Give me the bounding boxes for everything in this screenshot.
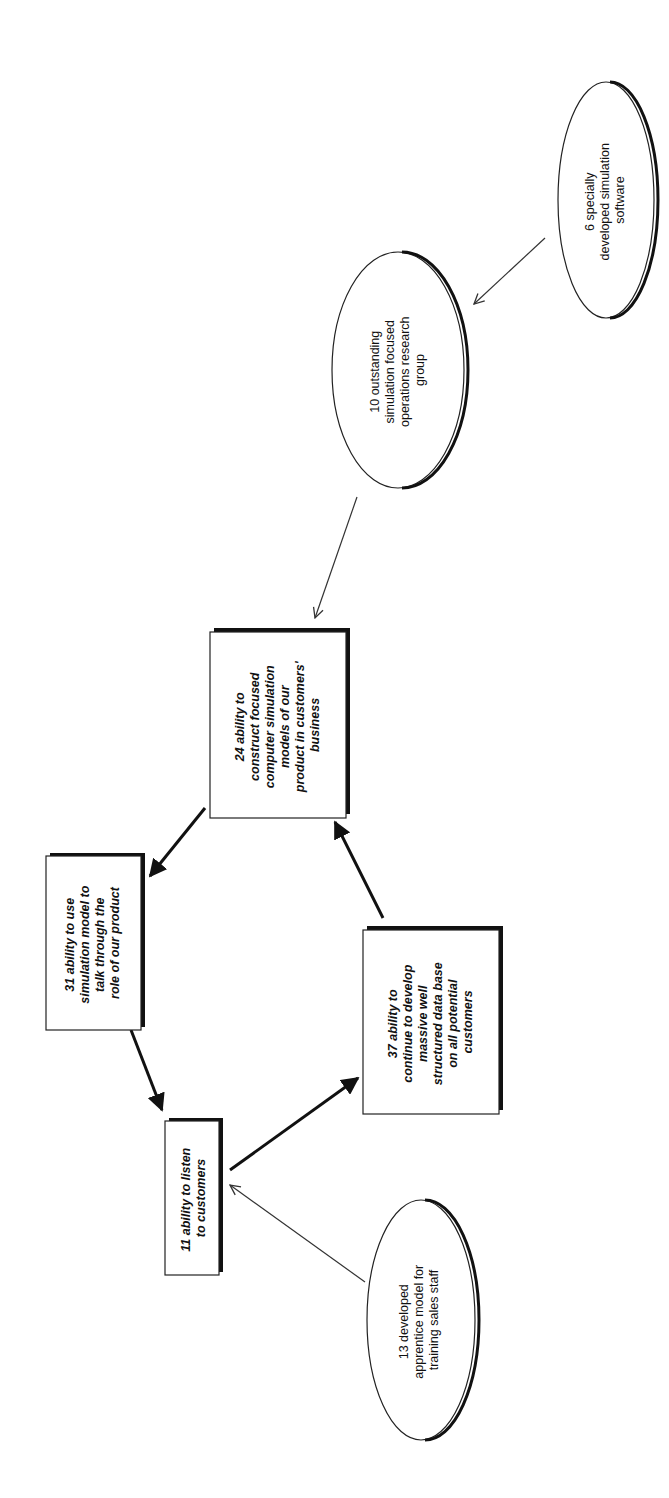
- node-37-line: continue to develop: [401, 964, 415, 1082]
- node-31-line: talk through the: [93, 897, 107, 991]
- node-10-line: group: [413, 354, 427, 386]
- node-37-line: on all potential: [446, 979, 460, 1068]
- edge-24-to-31: [150, 808, 205, 876]
- node-6-line: software: [613, 176, 627, 223]
- node-37: 37 ability to continue to develop massiv…: [363, 926, 503, 1114]
- node-6-line: developed simulation: [598, 143, 612, 260]
- edge-31-to-11: [131, 1030, 162, 1110]
- node-10: 10 outstanding simulation focused operat…: [332, 252, 468, 488]
- svg-text:11 ability to listen to: 11 ability to listen to customers: [179, 1144, 208, 1251]
- node-11-line: to customers: [194, 1159, 208, 1238]
- node-37-line: 37 ability to: [386, 989, 400, 1058]
- node-24-line: business: [308, 698, 322, 752]
- node-31-line: 31 ability to use: [63, 898, 77, 992]
- node-11-line: 11 ability to listen: [179, 1147, 193, 1251]
- node-37-line: customers: [461, 990, 475, 1053]
- edge-11-to-37: [230, 1078, 358, 1170]
- node-24-line: computer simulation: [263, 665, 277, 788]
- diagram-canvas: 6 specially developed simulation softwar…: [0, 0, 669, 1498]
- node-10-line: operations research: [398, 316, 412, 427]
- node-13: 13 developed apprentice model for traini…: [367, 1200, 479, 1440]
- node-13-line: training sales staff: [427, 1269, 441, 1370]
- node-11: 11 ability to listen to customers: [165, 1118, 223, 1275]
- node-6-line: 6 specially: [583, 172, 597, 231]
- svg-text:31 ability to use simula: 31 ability to use simulation model to ta…: [63, 882, 122, 1004]
- node-6: 6 specially developed simulation softwar…: [558, 82, 658, 318]
- node-31: 31 ability to use simulation model to ta…: [46, 853, 145, 1030]
- edge-13-to-11: [230, 1185, 365, 1282]
- edge-37-to-24: [335, 822, 383, 918]
- node-10-line: 10 outstanding: [368, 331, 382, 413]
- edge-6-to-10: [474, 238, 545, 304]
- node-13-line: apprentice model for: [412, 1265, 426, 1379]
- node-31-line: simulation model to: [78, 885, 92, 1003]
- node-13-line: 13 developed: [397, 1284, 411, 1359]
- node-31-line: role of our product: [108, 886, 122, 999]
- edge-10-to-24: [315, 497, 357, 618]
- node-10-line: simulation focused: [383, 320, 397, 424]
- node-24-line: product in customers': [293, 660, 307, 793]
- node-24: 24 ability to construct focused computer…: [210, 628, 350, 818]
- node-24-line: models of our: [278, 684, 292, 768]
- node-37-line: structured data base: [431, 962, 445, 1085]
- node-24-line: construct focused: [248, 672, 262, 781]
- node-24-line: 24 ability to: [233, 692, 247, 762]
- node-37-line: massive well: [416, 985, 430, 1062]
